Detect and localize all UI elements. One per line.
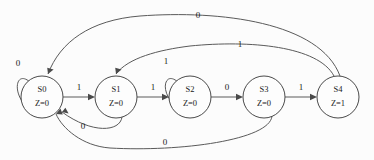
edge-label-s2-to-s3: 0 bbox=[225, 82, 230, 92]
state-output-s0: Z=0 bbox=[35, 98, 49, 108]
state-label-s3: S3 bbox=[260, 84, 269, 94]
state-output-s1: Z=0 bbox=[109, 98, 123, 108]
edge-label-s0-to-s1: 1 bbox=[77, 82, 82, 92]
edge-label-s2-self: 1 bbox=[164, 56, 169, 66]
state-output-s3: Z=0 bbox=[257, 98, 271, 108]
edge-s4-to-s1 bbox=[116, 44, 334, 76]
edge-label-s1-to-s0: 0 bbox=[81, 121, 86, 131]
edge-label-s3-to-s4: 1 bbox=[299, 82, 304, 92]
edge-label-s1-to-s2: 1 bbox=[151, 82, 156, 92]
state-diagram-canvas: S0 Z=0 S1 Z=0 S2 Z=0 S3 Z=0 S4 Z bbox=[0, 0, 374, 160]
state-output-s2: Z=0 bbox=[183, 98, 197, 108]
arrowhead-s3-to-s4 bbox=[310, 94, 317, 100]
edge-label-s3-to-s0: 0 bbox=[163, 137, 168, 147]
state-node-s3[interactable]: S3 Z=0 bbox=[243, 76, 285, 118]
arrowhead-s2-to-s3 bbox=[236, 94, 243, 100]
state-diagram-svg: S0 Z=0 S1 Z=0 S2 Z=0 S3 Z=0 S4 Z bbox=[0, 0, 374, 160]
state-node-s0[interactable]: S0 Z=0 bbox=[21, 76, 63, 118]
state-output-s4: Z=1 bbox=[331, 98, 345, 108]
state-label-s1: S1 bbox=[112, 84, 121, 94]
arrowhead-s0-to-s1 bbox=[88, 94, 95, 100]
state-node-s2[interactable]: S2 Z=0 bbox=[169, 76, 211, 118]
state-label-s0: S0 bbox=[38, 84, 47, 94]
arrowhead-s1-to-s2 bbox=[162, 94, 169, 100]
edge-label-s4-to-s1: 1 bbox=[238, 39, 243, 49]
edge-label-s0-self: 0 bbox=[16, 58, 21, 68]
edge-label-s4-to-s0: 0 bbox=[196, 10, 201, 20]
state-label-s2: S2 bbox=[186, 84, 195, 94]
state-node-s4[interactable]: S4 Z=1 bbox=[317, 76, 359, 118]
state-node-s1[interactable]: S1 Z=0 bbox=[95, 76, 137, 118]
arrowhead-s4-to-s0 bbox=[47, 68, 53, 74]
state-label-s4: S4 bbox=[334, 84, 344, 94]
